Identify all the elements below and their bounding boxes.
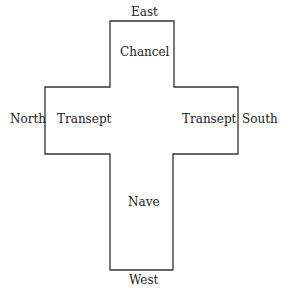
church-plan-diagram: East Chancel North Transept Transept Sou… [0,0,282,293]
compass-east-label: East [131,5,158,19]
north-transept-label: Transept [57,112,111,126]
compass-south-label: South [242,112,278,126]
compass-west-label: West [129,273,158,287]
nave-label: Nave [128,195,160,209]
compass-north-label: North [10,112,46,126]
south-transept-label: Transept [182,112,236,126]
cross-outline [0,0,282,293]
chancel-label: Chancel [120,45,169,59]
